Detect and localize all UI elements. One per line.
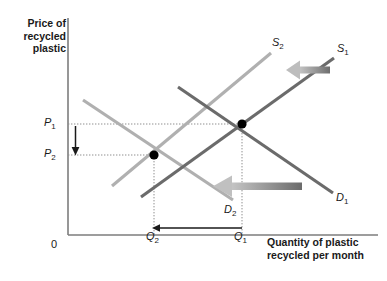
tick-label-q1: Q1 <box>234 230 247 245</box>
equilibrium-point-1 <box>237 119 246 128</box>
tick-label-q2-sub: 2 <box>155 236 159 245</box>
curve-label-d1-sub: 1 <box>344 197 348 206</box>
curve-label-d2-sub: 2 <box>232 209 236 218</box>
tick-label-q2: Q2 <box>146 230 159 245</box>
curve-label-s1: S1 <box>337 42 349 57</box>
demand-shift-arrow <box>213 176 302 198</box>
tick-label-p2: P2 <box>44 147 56 162</box>
price-change-arrow <box>72 126 80 156</box>
tick-label-p2-sub: 2 <box>51 153 55 162</box>
tick-label-p1-sub: 1 <box>51 122 55 131</box>
curve-label-d1: D1 <box>336 191 348 206</box>
tick-label-q2-base: Q <box>146 230 155 242</box>
tick-label-q1-sub: 1 <box>243 236 247 245</box>
curve-label-s1-sub: 1 <box>344 48 348 57</box>
supply-curve-s1 <box>141 58 334 197</box>
curve-label-d1-base: D <box>336 191 344 203</box>
y-axis-title: Price of recycled plastic <box>4 17 66 55</box>
equilibrium-point-2 <box>149 150 158 159</box>
curve-label-s2-sub: 2 <box>279 42 283 51</box>
curve-label-d2: D2 <box>224 203 236 218</box>
tick-label-q1-base: Q <box>234 230 243 242</box>
supply-demand-diagram: Price of recycled plastic Quantity of pl… <box>0 0 387 281</box>
tick-label-p1: P1 <box>44 116 56 131</box>
quantity-change-arrow <box>152 224 242 231</box>
curve-label-s2: S2 <box>272 36 284 51</box>
x-axis-title: Quantity of plastic recycled per month <box>267 236 387 261</box>
origin-label: 0 <box>51 238 57 250</box>
curve-label-d2-base: D <box>224 203 232 215</box>
